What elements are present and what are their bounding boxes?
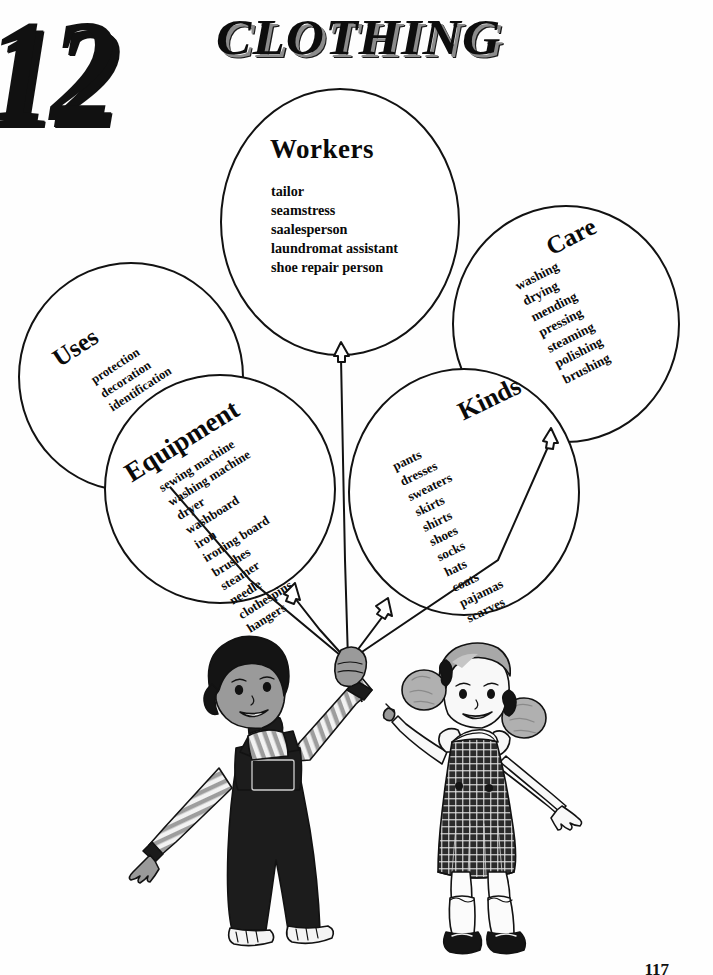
girl-right-hand [551, 806, 582, 830]
girl-eye-right [487, 689, 495, 699]
page-canvas: 12 CLOTHING Workers [0, 0, 713, 975]
girl-bow-left [440, 660, 452, 686]
girl-shoe-right [487, 932, 525, 954]
boy-left-sleeve [149, 768, 232, 856]
boy-shoe-left [229, 928, 274, 946]
boy-shirt-chest [248, 730, 288, 760]
boy-figure [129, 636, 372, 945]
boy-eye-right [263, 682, 271, 692]
girl-shoe-left [444, 932, 482, 954]
children-illustration [0, 0, 713, 975]
boy-shoe-right [287, 926, 334, 943]
girl-eye-left [459, 689, 467, 699]
boy-eye-left [235, 685, 243, 695]
page-number: 117 [644, 960, 669, 975]
girl-left-hand [384, 708, 395, 721]
girl-button-right [485, 784, 493, 792]
girl-bow-right [503, 690, 516, 716]
girl-button-left [455, 782, 463, 790]
boy-grip-hand [335, 647, 367, 686]
girl-figure [384, 643, 582, 954]
